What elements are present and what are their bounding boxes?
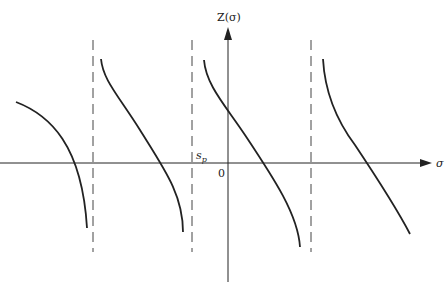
sigma-axis-label: σ [436,158,444,169]
curve-branch-3 [204,60,300,247]
curve-branch-1 [16,102,87,228]
pole-label-sp: sp [196,150,207,164]
impedance-plot [0,0,446,292]
origin-label: 0 [218,168,225,179]
curve-branch-2 [101,59,183,232]
z-axis-label: Z(σ) [217,12,241,23]
pole-label-sub: p [202,155,207,164]
curve-branch-4 [323,59,410,234]
z-axis-arrow-icon [224,27,232,40]
sigma-axis-arrow-icon [420,159,432,167]
